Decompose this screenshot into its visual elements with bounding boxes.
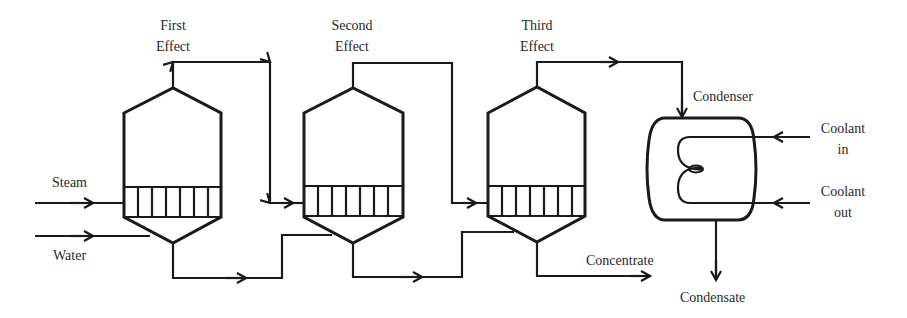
third-effect-label-line1: Third	[521, 18, 552, 33]
third-effect-label-line2: Effect	[520, 39, 554, 54]
coolant-out-label-line2: out	[834, 205, 852, 220]
condenser-unit	[647, 118, 810, 220]
water-label: Water	[53, 248, 86, 263]
vapor-line-1-to-2	[173, 62, 292, 203]
first-effect-label-line1: First	[160, 18, 186, 33]
condensate-label: Condensate	[680, 290, 745, 305]
second-effect-label-line2: Effect	[335, 39, 369, 54]
second-effect-vessel	[304, 88, 403, 243]
liquor-line-1-to-2	[173, 235, 332, 278]
concentrate-label: Concentrate	[586, 253, 654, 268]
liquor-line-2-to-3	[353, 232, 514, 277]
coolant-in-label-line1: Coolant	[821, 121, 865, 136]
coolant-in-label-line2: in	[838, 142, 849, 157]
second-effect-label-line1: Second	[331, 18, 372, 33]
third-effect-vessel	[488, 87, 585, 242]
vapor-line-3-to-condenser	[537, 62, 682, 118]
first-effect-label-line2: Effect	[156, 39, 190, 54]
vapor-line-2-to-3	[353, 63, 488, 203]
evaporator-diagram: First Effect Second Effect Third Effect …	[0, 0, 907, 318]
steam-label: Steam	[52, 175, 87, 190]
coolant-out-label-line1: Coolant	[821, 184, 865, 199]
condenser-label: Condenser	[693, 89, 753, 104]
first-effect-vessel	[124, 88, 221, 243]
